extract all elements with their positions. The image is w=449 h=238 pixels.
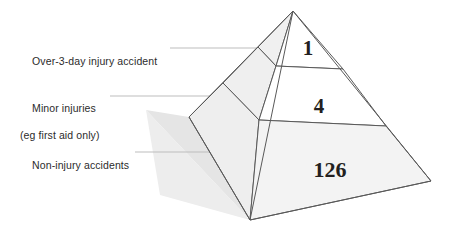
tier-value-middle: 4 bbox=[314, 94, 325, 118]
tier-value-bottom: 126 bbox=[314, 157, 347, 182]
callout-minor-injuries-line1: Minor injuries bbox=[32, 102, 96, 114]
callout-over-3-day-line1: Over-3-day injury accident bbox=[32, 55, 157, 67]
callout-non-injury: Non-injury accidents bbox=[20, 145, 129, 186]
figure-canvas: 1 4 126 Over-3-day injury accident Minor… bbox=[0, 0, 449, 238]
callout-over-3-day: Over-3-day injury accident bbox=[20, 41, 157, 82]
callout-minor-injuries-line2: (eg first aid only) bbox=[20, 129, 100, 143]
callout-non-injury-line1: Non-injury accidents bbox=[32, 159, 129, 171]
tier-value-top: 1 bbox=[303, 36, 314, 60]
